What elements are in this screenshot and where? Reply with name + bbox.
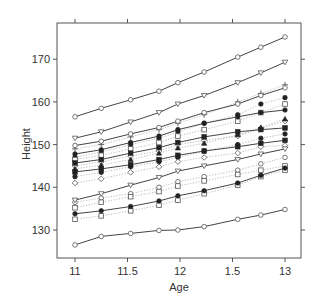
data-point-marker [99,167,104,172]
x-tick-label: 12 [174,265,186,277]
data-point-marker [128,97,133,102]
data-point-marker [157,140,162,145]
data-point-marker [235,119,240,124]
data-point-marker [72,136,78,141]
data-point-marker [282,60,288,65]
data-point-marker [202,224,207,229]
data-point-marker [176,184,181,189]
data-point-marker [99,106,104,111]
data-point-marker [176,127,181,132]
data-point-marker [259,45,264,50]
data-point-marker [73,174,78,179]
data-point-marker [202,127,207,132]
data-point-marker [128,140,133,145]
data-point-marker [283,166,288,171]
data-point-marker [282,116,287,121]
data-point-marker [176,134,181,139]
data-point-marker [157,157,162,162]
data-point-marker [235,115,240,120]
growth-curve-line [75,85,285,149]
data-point-marker [99,200,104,205]
data-point-marker [259,168,264,173]
data-point-marker [202,70,207,75]
data-point-marker [259,162,264,167]
data-point-marker [259,173,264,178]
data-point-marker [283,138,288,143]
growth-curve-line [75,168,285,214]
data-point-marker [157,125,162,130]
x-axis-title: Age [169,281,189,293]
data-point-marker [157,203,162,208]
data-point-marker [259,110,264,115]
data-point-marker [99,208,104,213]
growth-curve-line [75,37,285,117]
data-point-marker [202,110,207,115]
growth-curve-chart: 1111.5121.513 130140150160170 Age Height [0,0,320,304]
data-point-marker [283,35,288,40]
x-tick-label: 11 [69,265,80,277]
data-point-marker [176,198,181,203]
data-point-marker [73,170,78,175]
data-point-marker [128,204,133,209]
data-point-marker [128,208,133,213]
data-point-marker [128,151,133,156]
data-point-marker [259,127,264,132]
data-point-marker [99,157,104,162]
y-axis-title: Height [20,128,32,160]
series-subject-19 [73,207,288,247]
data-point-marker [175,102,181,107]
data-point-marker [259,141,264,146]
data-point-marker [157,228,162,233]
data-point-marker [201,155,207,161]
data-point-marker [202,188,207,193]
data-point-marker [176,80,181,85]
data-point-marker [259,102,264,107]
data-point-marker [259,93,264,98]
data-point-marker [99,214,104,219]
y-tick-label: 150 [32,139,50,151]
data-point-marker [73,161,78,166]
data-point-marker [157,189,162,194]
data-point-marker [98,176,104,182]
data-point-marker [176,228,181,233]
data-point-marker [258,71,264,76]
data-point-marker [283,95,288,100]
data-point-marker [283,207,288,212]
data-point-marker [157,145,162,150]
x-tick-label: 1.5 [225,265,240,277]
y-tick-label: 170 [32,53,50,65]
data-point-marker [202,149,207,154]
data-point-marker [128,162,133,167]
data-point-marker [128,132,133,137]
data-point-marker [73,143,78,148]
data-point-marker [176,140,181,145]
x-tick-label: 11.5 [117,265,138,277]
data-point-marker [235,102,240,107]
x-tick-label: 13 [279,265,291,277]
data-point-marker [128,194,133,199]
data-point-marker [72,180,78,186]
data-point-marker [176,194,181,199]
y-tick-label: 140 [32,181,50,193]
data-point-marker [176,153,181,158]
data-point-marker [128,231,133,236]
data-point-marker [73,243,78,248]
data-point-marker [235,129,240,134]
data-point-marker [73,152,78,157]
data-point-marker [202,179,207,184]
data-point-marker [235,217,240,222]
data-point-marker [235,172,240,177]
data-point-marker [259,213,264,218]
y-tick-label: 130 [32,224,50,236]
data-point-marker [156,164,162,170]
data-point-marker [283,126,288,131]
data-point-marker [175,159,181,165]
data-point-marker [259,136,264,141]
data-point-marker [202,121,207,126]
data-point-marker [73,205,78,210]
data-point-marker [235,144,240,149]
data-point-marker [73,115,78,120]
data-point-marker [73,217,78,222]
data-point-marker [128,147,133,152]
data-point-marker [99,139,104,144]
